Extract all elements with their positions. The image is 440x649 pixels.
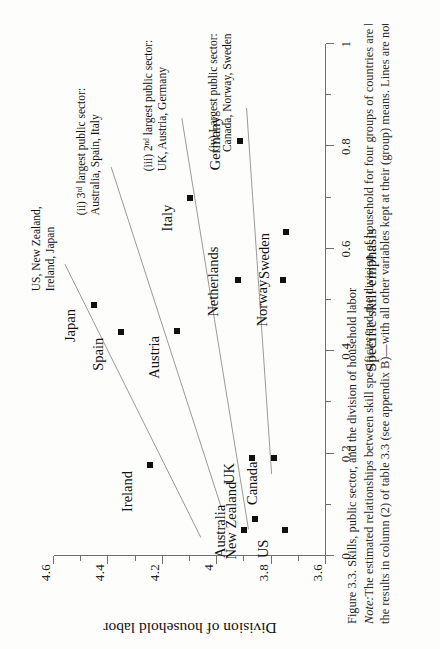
data-point [271,455,277,461]
group-annotation-iii: (iii) 2ⁿᵈ largest public sector:UK, Aust… [141,40,169,172]
data-point [187,195,193,201]
annotation-line: (iii) 2ⁿᵈ largest public sector: [141,40,155,172]
y-tick [243,556,244,561]
data-point-label: Italy [159,205,176,232]
y-tick-label: 3.8 [256,564,272,596]
data-point-label: Sweden [256,233,273,279]
y-tick-label: 4.4 [92,564,108,596]
x-tick [326,504,331,505]
data-point-label: New Zealand [223,482,240,560]
regression-line-group-iii [182,118,249,529]
data-point [118,329,124,335]
note-label: Note: [362,596,376,624]
x-tick [326,43,334,44]
annotation-line: Canada, Norway, Sweden [220,33,234,152]
y-axis-title: Division of household labor [103,619,277,637]
figure-rotated-content: 00.20.40.60.81 3.63.844.24.44.6 JapanSpa… [44,18,396,630]
group-annotation-ii: (ii) 3ʳᵈ largest public sector:Australia… [74,88,102,215]
y-tick [80,556,81,561]
data-point-label: Canada [244,462,261,505]
x-tick [326,94,331,95]
data-point-label: Netherlands [205,247,222,317]
x-tick [326,555,334,556]
data-point-label: US [255,540,272,559]
data-point [280,277,286,283]
data-point [249,455,255,461]
y-tick-label: 4 [201,564,217,596]
caption-title: Figure 3.3. Skills, public sector, and t… [344,24,361,624]
annotation-line: US, New Zealand, [29,206,43,291]
annotation-line: Ireland, Japan [43,206,57,291]
group-annotation-i: US, New Zealand,Ireland, Japan [29,206,57,291]
annotation-line: (iv) Largest public sector: [206,33,220,152]
scatter-plot-area: 00.20.40.60.81 3.63.844.24.44.6 JapanSpa… [54,44,326,556]
x-tick [326,197,331,198]
y-tick [135,556,136,561]
y-tick [107,556,108,564]
y-tick [325,556,326,564]
annotation-line: UK, Austria, Germany [155,40,169,172]
data-point-label: Norway [254,280,271,327]
x-tick [326,401,331,402]
y-tick [53,556,54,564]
data-point [252,516,258,522]
data-point [91,302,97,308]
data-point [237,138,243,144]
figure-caption: Figure 3.3. Skills, public sector, and t… [344,24,394,624]
x-tick [326,145,334,146]
y-tick [162,556,163,564]
annotation-line: Australia, Spain, Italy [88,88,102,215]
x-tick [326,299,331,300]
y-axis-line [54,555,326,556]
data-point [235,277,241,283]
figure-page: 00.20.40.60.81 3.63.844.24.44.6 JapanSpa… [0,0,440,649]
y-tick-label: 4.2 [147,564,163,596]
note-text-1: The estimated relationships between skil… [362,24,376,596]
y-tick-label: 4.6 [38,564,54,596]
annotation-line: (ii) 3ʳᵈ largest public sector: [74,88,88,215]
data-point [147,462,153,468]
x-tick [326,453,334,454]
x-tick [326,350,334,351]
y-tick-label: 3.6 [310,564,326,596]
data-point [241,527,247,533]
caption-note-line-1: Note:The estimated relationships between… [361,24,378,624]
group-annotation-iv: (iv) Largest public sector:Canada, Norwa… [206,33,234,152]
data-point-label: Ireland [119,471,136,512]
data-point-label: Japan [62,309,79,342]
x-axis-line [325,44,326,556]
data-point [283,229,289,235]
rotated-figure-wrapper: 00.20.40.60.81 3.63.844.24.44.6 JapanSpa… [0,0,440,649]
x-tick [326,248,334,249]
data-point-label: Austria [146,336,163,379]
data-point [174,328,180,334]
y-tick [298,556,299,561]
y-tick [189,556,190,561]
data-point-label: Spain [90,338,107,371]
caption-note-line-2: the results in column (2) of table 3.3 (… [377,24,394,624]
data-point [282,527,288,533]
